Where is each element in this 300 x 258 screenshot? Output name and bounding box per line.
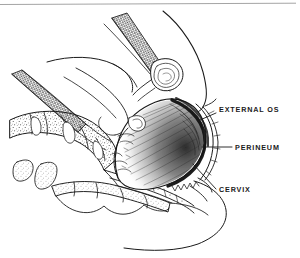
label-cervix: CERVIX: [219, 185, 251, 194]
label-external-os: EXTERNAL OS: [219, 105, 279, 114]
pubic-symphysis: [133, 59, 183, 101]
vertebral-fragments: [13, 160, 57, 189]
top-rule: [0, 3, 296, 4]
illustration-canvas: EXTERNAL OS PERINEUM CERVIX: [0, 0, 300, 258]
childbirth-sagittal-diagram: EXTERNAL OS PERINEUM CERVIX: [0, 0, 300, 258]
label-group: EXTERNAL OS PERINEUM CERVIX: [219, 105, 280, 194]
label-perineum: PERINEUM: [235, 143, 280, 152]
